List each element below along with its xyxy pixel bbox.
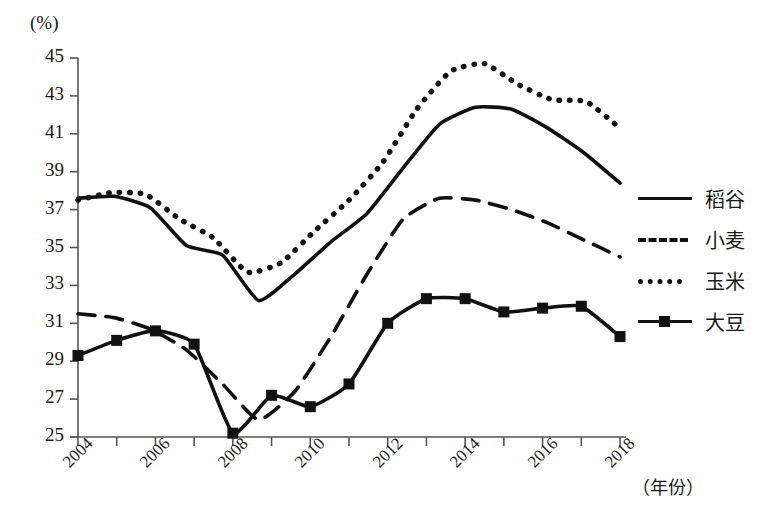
chart-container: (%) 2527293133353739414345 2004200620082…	[0, 0, 769, 530]
chart-legend: 稻谷 小麦 玉米 大豆	[636, 178, 766, 342]
y-tick-label: 27	[30, 386, 64, 408]
series-line-2	[78, 64, 620, 273]
y-tick-label: 39	[30, 159, 64, 181]
series-marker-3	[576, 301, 587, 312]
y-tick-label: 29	[30, 348, 64, 370]
legend-item-rice[interactable]: 稻谷	[636, 178, 766, 219]
series-marker-3	[498, 306, 509, 317]
legend-swatch-dashed-icon	[636, 231, 694, 249]
x-axis-title: （年份）	[632, 473, 704, 499]
series-marker-3	[537, 303, 548, 314]
series-group	[73, 64, 626, 439]
series-marker-3	[421, 293, 432, 304]
legend-swatch-dotted-icon	[636, 272, 694, 290]
legend-label-wheat: 小麦	[705, 225, 745, 254]
series-marker-3	[615, 331, 626, 342]
y-tick-label: 45	[30, 45, 64, 67]
series-marker-3	[266, 390, 277, 401]
y-tick-label: 33	[30, 272, 64, 294]
series-marker-3	[111, 335, 122, 346]
y-tick-label: 37	[30, 197, 64, 219]
y-tick-label: 41	[30, 121, 64, 143]
legend-label-corn: 玉米	[705, 266, 745, 295]
legend-label-rice: 稻谷	[705, 184, 745, 213]
y-tick-label: 35	[30, 235, 64, 257]
series-marker-3	[150, 325, 161, 336]
series-marker-3	[460, 293, 471, 304]
y-tick-label: 43	[30, 83, 64, 105]
y-tick-label: 31	[30, 310, 64, 332]
legend-item-soybean[interactable]: 大豆	[636, 301, 766, 342]
legend-swatch-solid-marker-icon	[636, 313, 694, 331]
legend-swatch-solid-icon	[636, 190, 694, 208]
series-marker-3	[344, 378, 355, 389]
y-tick-label: 25	[30, 424, 64, 446]
legend-label-soybean: 大豆	[705, 307, 745, 336]
series-marker-3	[73, 350, 84, 361]
series-marker-3	[382, 318, 393, 329]
legend-item-corn[interactable]: 玉米	[636, 260, 766, 301]
series-marker-3	[305, 401, 316, 412]
series-marker-3	[189, 339, 200, 350]
series-line-3	[78, 297, 620, 433]
legend-item-wheat[interactable]: 小麦	[636, 219, 766, 260]
